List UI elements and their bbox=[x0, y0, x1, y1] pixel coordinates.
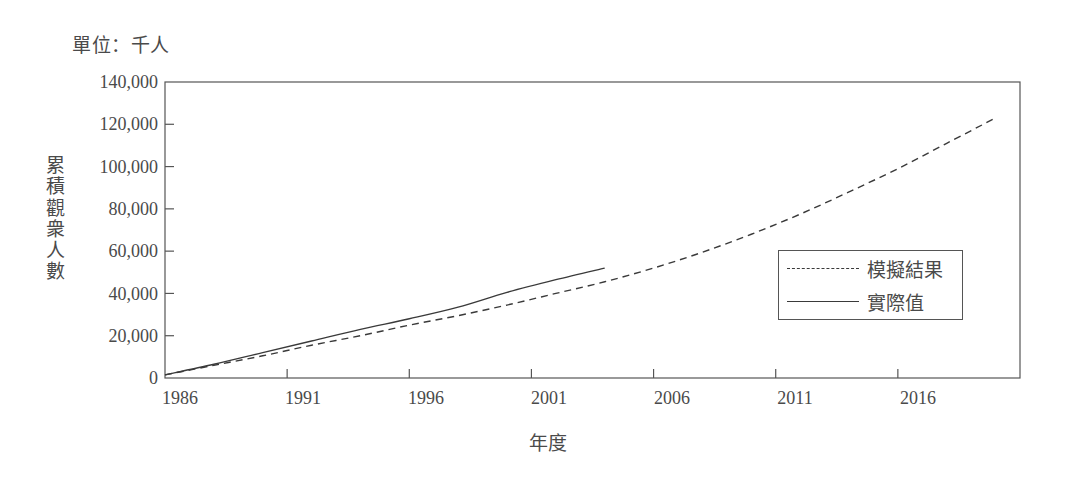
chart-container: 單位：千人 累積觀衆人數 140,000 120,000 100,000 80,… bbox=[0, 0, 1067, 479]
legend-label: 實際值 bbox=[867, 288, 924, 315]
series-line-simulated bbox=[165, 118, 996, 375]
solid-line-icon bbox=[787, 301, 859, 302]
plot-area bbox=[0, 0, 1067, 479]
series-line-actual bbox=[165, 268, 605, 375]
dashed-line-icon bbox=[787, 268, 859, 269]
legend-label: 模擬結果 bbox=[867, 255, 943, 282]
y-axis-ticks bbox=[165, 124, 174, 335]
x-axis-title-text: 年度 bbox=[529, 428, 567, 455]
legend: 模擬結果 實際值 bbox=[778, 250, 963, 320]
x-axis-title: 年度 bbox=[0, 428, 1067, 455]
legend-item-actual: 實際值 bbox=[787, 284, 924, 319]
legend-item-simulated: 模擬結果 bbox=[787, 251, 943, 286]
plot-frame bbox=[165, 82, 1020, 378]
x-axis-ticks bbox=[287, 369, 898, 378]
